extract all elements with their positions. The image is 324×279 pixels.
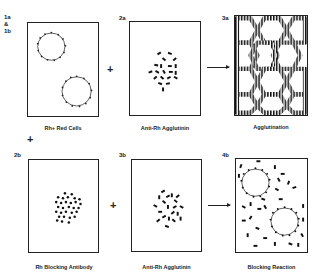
panel-tag-3a: 3a <box>222 15 229 21</box>
agglutinin-illustration <box>132 160 201 251</box>
caption-rh-red-cells: Rh+ Red Cells <box>27 125 99 131</box>
panel-tag-1a: 1a & 1b <box>4 14 11 34</box>
blocking-reaction-illustration <box>236 159 307 252</box>
panel-tag-3b: 3b <box>119 152 126 158</box>
plus-operator: + <box>110 200 116 211</box>
plus-operator-vertical: + <box>27 134 33 145</box>
caption-rh-blocking-antibody: Rh Blocking Antibody <box>26 264 102 270</box>
arrow-right-icon <box>208 205 230 206</box>
panel-rh-blocking-antibody <box>28 159 99 253</box>
panel-rh-red-cells <box>27 22 99 117</box>
tag-line: 1a <box>4 14 11 20</box>
blocking-antibody-illustration <box>29 160 98 252</box>
agglutinin-illustration <box>130 22 200 115</box>
panel-agglutination <box>234 15 308 116</box>
caption-anti-rh-agglutinin-top: Anti-Rh Agglutinin <box>129 125 201 131</box>
caption-agglutination: Agglutination <box>234 124 308 130</box>
tag-line: 1b <box>4 28 11 34</box>
panel-tag-2a: 2a <box>119 15 126 21</box>
tag-line: & <box>4 21 11 27</box>
plus-operator: + <box>107 64 113 75</box>
panel-tag-2b: 2b <box>14 152 21 158</box>
agglutination-illustration <box>235 16 307 115</box>
panel-anti-rh-agglutinin <box>129 21 201 116</box>
caption-blocking-reaction: Blocking Reaction <box>235 264 308 270</box>
arrow-right-icon <box>207 67 229 68</box>
panel-tag-4b: 4b <box>222 152 229 158</box>
panel-anti-rh-agglutinin-2 <box>131 159 202 252</box>
caption-anti-rh-agglutinin-bottom: Anti-Rh Agglutinin <box>131 264 202 270</box>
panel-blocking-reaction <box>235 158 308 253</box>
red-cells-illustration <box>28 23 98 116</box>
